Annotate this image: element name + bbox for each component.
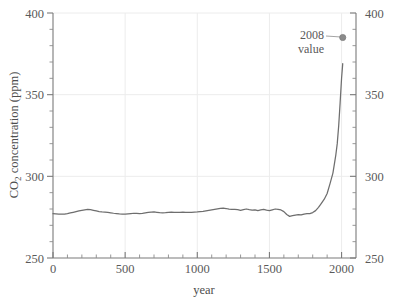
y-tick-label-400: 400 (25, 7, 44, 21)
y-axis-right-major-ticks (350, 13, 356, 258)
co2-data-line (53, 64, 343, 217)
y-axis-right-tick-labels: 400 350 300 250 (365, 7, 384, 266)
y-right-tick-label-350: 350 (365, 88, 384, 102)
y-right-tick-label-400: 400 (365, 7, 384, 21)
x-tick-label-500: 500 (116, 262, 135, 276)
y-right-tick-label-250: 250 (365, 252, 384, 266)
y-right-tick-label-300: 300 (365, 170, 384, 184)
x-tick-label-1500: 1500 (257, 262, 282, 276)
y-axis-title-post: concentration (ppm) (7, 72, 21, 177)
co2-line-chart: 400 350 300 250 400 350 300 250 0 500 10… (0, 0, 394, 307)
y-tick-label-350: 350 (25, 88, 44, 102)
y-tick-label-250: 250 (25, 252, 44, 266)
y-tick-label-300: 300 (25, 170, 44, 184)
annotation-line-1: 2008 (300, 28, 324, 42)
annotation-line-2: value (298, 42, 324, 56)
y-axis-left-tick-labels: 400 350 300 250 (25, 7, 44, 266)
x-tick-label-2000: 2000 (329, 262, 354, 276)
x-tick-label-1000: 1000 (185, 262, 210, 276)
y-axis-title-pre: CO (7, 181, 21, 198)
annotation-marker-dot (340, 34, 346, 40)
svg-text:CO2 concentration (ppm): CO2 concentration (ppm) (7, 72, 23, 199)
x-axis-title: year (193, 283, 215, 297)
x-tick-label-0: 0 (50, 262, 56, 276)
x-axis-tick-labels: 0 500 1000 1500 2000 (50, 262, 354, 276)
y-axis-title: CO2 concentration (ppm) (7, 72, 23, 199)
annotation-leader-line (326, 36, 341, 37)
y-axis-left-major-ticks (47, 13, 53, 258)
chart-container: 400 350 300 250 400 350 300 250 0 500 10… (0, 0, 394, 307)
annotation-label: 2008 value (298, 28, 324, 56)
